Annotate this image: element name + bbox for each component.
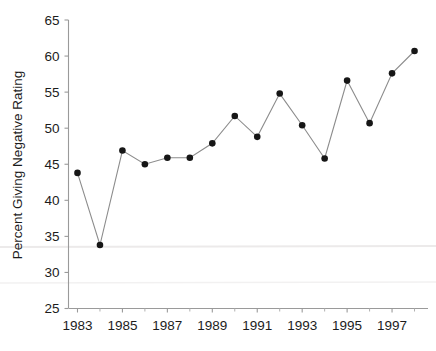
- series-line-negative-rating: [77, 51, 414, 245]
- x-axis-ticks: [77, 309, 414, 313]
- x-tick-label-1997: 1997: [377, 318, 407, 333]
- x-axis-tick-labels: 19831985198719891991199319951997: [62, 318, 407, 333]
- series-markers: [74, 48, 418, 249]
- data-point-1990: [231, 113, 238, 120]
- y-tick-label-25: 25: [44, 301, 59, 316]
- data-point-1987: [164, 154, 171, 161]
- x-tick-label-1993: 1993: [287, 318, 317, 333]
- data-point-1992: [276, 90, 283, 97]
- data-point-1993: [299, 122, 306, 129]
- y-tick-label-40: 40: [44, 193, 59, 208]
- y-tick-label-35: 35: [44, 229, 59, 244]
- data-point-1983: [74, 170, 81, 177]
- y-tick-label-55: 55: [44, 85, 59, 100]
- x-tick-label-1995: 1995: [332, 318, 362, 333]
- y-axis-title: Percent Giving Negative Rating: [10, 71, 25, 259]
- y-axis-tick-labels: 253035404550556065: [44, 13, 59, 317]
- chart-container: 253035404550556065 Percent Giving Negati…: [0, 0, 436, 351]
- x-tick-label-1989: 1989: [197, 318, 227, 333]
- scan-artifacts: [0, 246, 436, 283]
- line-chart: 253035404550556065 Percent Giving Negati…: [0, 0, 436, 351]
- data-point-1997: [389, 70, 396, 77]
- data-point-1998: [411, 48, 418, 55]
- x-axis: 19831985198719891991199319951997: [62, 309, 428, 333]
- y-axis: 253035404550556065 Percent Giving Negati…: [10, 13, 69, 317]
- data-point-1991: [254, 134, 261, 141]
- x-tick-label-1983: 1983: [62, 318, 92, 333]
- data-point-1984: [97, 242, 104, 249]
- scan-streak-upper: [0, 246, 436, 247]
- x-tick-label-1991: 1991: [242, 318, 272, 333]
- data-point-1986: [142, 161, 149, 168]
- y-axis-ticks: [65, 20, 69, 309]
- x-tick-label-1985: 1985: [107, 318, 137, 333]
- data-point-1988: [187, 154, 194, 161]
- data-point-1989: [209, 140, 216, 147]
- y-tick-label-65: 65: [44, 13, 59, 28]
- scan-streak-lower: [0, 282, 436, 283]
- y-tick-label-30: 30: [44, 265, 59, 280]
- y-tick-label-60: 60: [44, 49, 59, 64]
- data-point-1985: [119, 147, 126, 154]
- data-series: [74, 48, 418, 249]
- data-point-1996: [366, 120, 373, 127]
- data-point-1994: [321, 155, 328, 162]
- y-tick-label-50: 50: [44, 121, 59, 136]
- y-tick-label-45: 45: [44, 157, 59, 172]
- data-point-1995: [344, 77, 351, 84]
- x-tick-label-1987: 1987: [152, 318, 182, 333]
